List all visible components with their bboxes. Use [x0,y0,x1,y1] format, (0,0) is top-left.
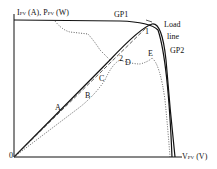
point-d-label: D [125,59,131,67]
iv-curve-shaded [55,21,110,60]
origin-label: 0 [9,152,13,160]
pv-curve-gp1 [14,24,175,157]
load-line-label-1: Load [164,21,180,29]
iv-curve [14,20,172,157]
point-c-label: C [99,75,104,83]
x-axis-label: VPV (V) [182,153,207,161]
load-line-label-2: line [167,33,179,41]
pv-curve-shaded [14,58,170,157]
load-line-arrow [146,20,152,22]
gp1-label: GP1 [114,11,128,19]
gp2-label: GP2 [170,47,184,55]
iv-pv-diagram [0,0,217,169]
point-b-label: B [85,92,90,100]
point-a-label: A [55,104,61,112]
y-axis-label: IPV (A), PPV (W) [17,9,69,17]
point-e-label: E [148,50,153,58]
point-1-label: 1 [145,28,149,36]
point-2-label: 2 [119,55,123,63]
